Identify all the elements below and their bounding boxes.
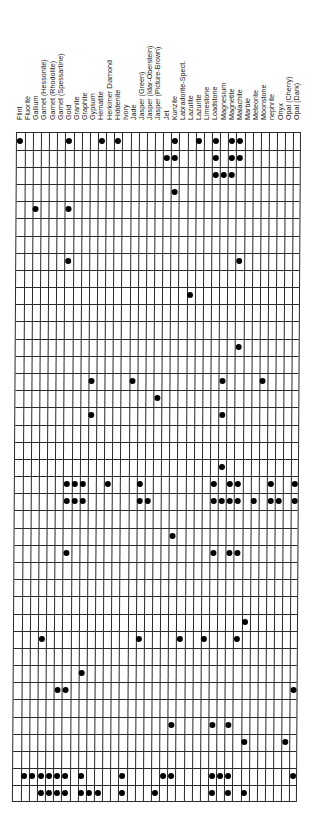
grid-row-line (16, 253, 299, 254)
data-dot (54, 773, 60, 779)
data-dot (119, 773, 125, 779)
data-dot (115, 138, 121, 144)
grid-column-line (86, 133, 91, 801)
grid-row-line (15, 459, 298, 460)
data-dot (168, 773, 174, 779)
grid-column-line (183, 133, 188, 801)
data-dot (209, 773, 215, 779)
data-dot (89, 412, 95, 418)
data-dot (64, 498, 70, 504)
data-dot (229, 138, 235, 144)
data-dot (219, 464, 225, 470)
data-dot (65, 206, 71, 212)
data-dot (119, 790, 125, 796)
grid-column-line (37, 133, 42, 801)
grid-column-line (94, 133, 99, 801)
data-dot (38, 773, 44, 779)
data-dot (282, 739, 288, 745)
grid-row-line (13, 734, 296, 735)
grid-row-line (15, 407, 298, 408)
data-dot (292, 498, 298, 504)
data-dot (290, 687, 296, 693)
column-label-text: Jasper (Picture-Brown) (154, 47, 162, 121)
data-dot (168, 722, 174, 728)
grid-row-line (13, 717, 296, 718)
data-dot (169, 533, 175, 539)
data-dot (21, 773, 27, 779)
data-dot (251, 498, 257, 504)
data-dot (234, 636, 240, 642)
column-label-text: Opal (Dark) (293, 83, 301, 120)
grid-row-line (17, 167, 300, 168)
data-dot (66, 138, 72, 144)
grid-row-line (15, 425, 298, 426)
data-dot (63, 550, 69, 556)
data-dot (241, 790, 247, 796)
data-dot (225, 790, 231, 796)
grid-column-line (102, 133, 107, 801)
data-dot (145, 498, 151, 504)
grid-column-line (240, 133, 245, 801)
data-dot (187, 292, 193, 298)
data-dot (79, 670, 85, 676)
grid-row-line (15, 390, 298, 391)
grid-column-line (118, 133, 123, 801)
dot-matrix-chart: FlintFluoriteGalliumGarnet (Hessonite)Ga… (0, 0, 321, 839)
data-dot (217, 773, 223, 779)
data-dot (241, 739, 247, 745)
chart-grid (12, 132, 301, 802)
grid-row-line (14, 699, 297, 700)
grid-column-line (126, 133, 131, 801)
data-dot (137, 498, 143, 504)
grid-row-line (16, 356, 299, 357)
data-dot (267, 498, 273, 504)
grid-column-line (78, 133, 83, 801)
data-dot (130, 378, 136, 384)
data-dot (212, 155, 218, 161)
grid-row-line (16, 373, 299, 374)
data-dot (38, 636, 44, 642)
grid-column-line (151, 133, 156, 801)
data-dot (225, 722, 231, 728)
data-dot (86, 790, 92, 796)
data-dot (220, 172, 226, 178)
data-dot (242, 619, 248, 625)
grid-row-line (16, 304, 299, 305)
grid-row-line (15, 493, 298, 494)
data-dot (237, 155, 243, 161)
grid-row-line (14, 682, 297, 683)
grid-row-line (13, 785, 296, 786)
data-dot (227, 498, 233, 504)
grid-column-line (61, 133, 66, 801)
grid-row-line (16, 218, 299, 219)
data-dot (94, 790, 100, 796)
grid-column-line (232, 133, 237, 801)
grid-row-line (14, 631, 297, 632)
data-dot (196, 138, 202, 144)
data-dot (260, 378, 266, 384)
data-dot (235, 481, 241, 487)
data-dot (72, 498, 78, 504)
grid-column-line (224, 133, 229, 801)
data-dot (235, 498, 241, 504)
grid-row-line (16, 287, 299, 288)
data-dot (78, 773, 84, 779)
grid-column-line (143, 133, 148, 801)
data-dot (104, 481, 110, 487)
grid-row-line (14, 579, 297, 580)
grid-column-line (192, 133, 197, 801)
grid-column-line (45, 133, 50, 801)
data-dot (33, 206, 39, 212)
data-dot (210, 498, 216, 504)
data-dot (218, 498, 224, 504)
data-dot (209, 722, 215, 728)
data-dot (78, 790, 84, 796)
grid-column-line (265, 133, 270, 801)
data-dot (54, 687, 60, 693)
column-labels: FlintFluoriteGalliumGarnet (Hessonite)Ga… (16, 0, 301, 130)
grid-row-line (14, 665, 297, 666)
grid-row-line (13, 768, 296, 769)
grid-column-line (53, 133, 58, 801)
data-dot (46, 790, 52, 796)
data-dot (290, 773, 296, 779)
